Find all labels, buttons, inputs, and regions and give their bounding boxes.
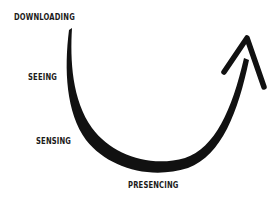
u-curve-stroke [67,28,249,173]
u-process-diagram: DOWNLOADING SEEING SENSING PRESENCING [0,0,278,207]
u-curve-arrow-icon [0,0,278,207]
